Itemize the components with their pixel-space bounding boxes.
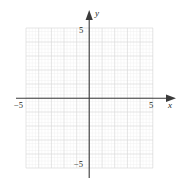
y-axis-tick-label-positive-5: 5 [79,26,83,35]
y-axis-tick-label-negative-5: −5 [74,160,83,169]
coordinate-plane-svg [0,0,181,184]
y-axis-arrow-icon [86,10,93,20]
y-axis-label: y [95,9,99,18]
coordinate-plane-figure: y x 5 −5 5 −5 [0,0,181,184]
x-axis-tick-label-positive-5: 5 [149,101,153,110]
x-axis-tick-label-negative-5: −5 [14,101,23,110]
x-axis-label: x [168,101,172,110]
